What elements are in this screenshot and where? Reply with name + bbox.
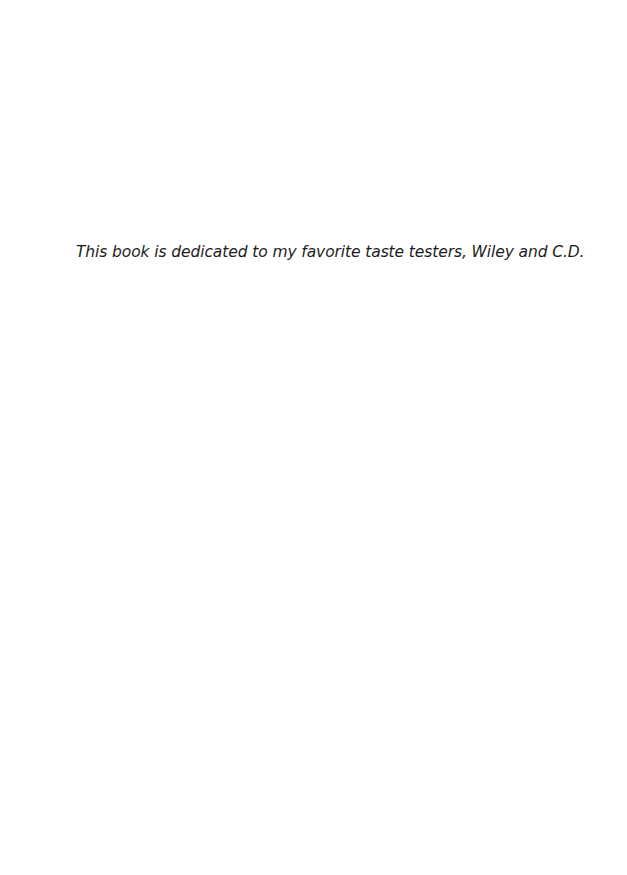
dedication-text: This book is dedicated to my favorite ta… — [76, 243, 584, 261]
book-page: This book is dedicated to my favorite ta… — [0, 0, 627, 875]
